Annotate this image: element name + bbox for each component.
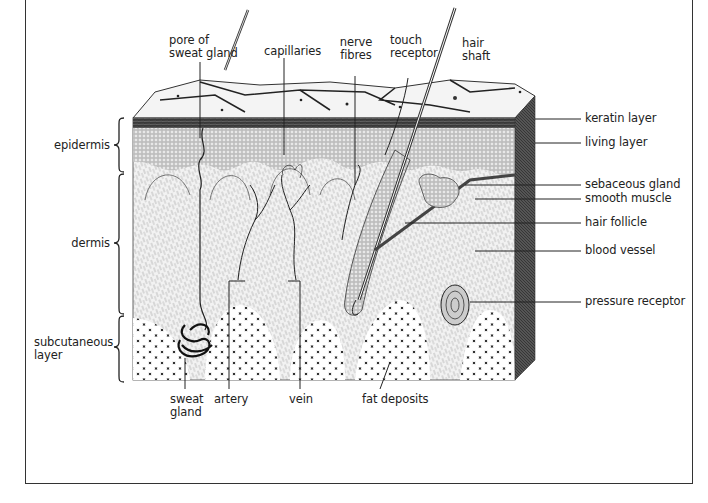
label-pore-line2: sweat gland — [169, 47, 238, 60]
label-hair-follicle: hair follicle — [585, 216, 647, 229]
side-face — [515, 96, 535, 380]
label-living-layer: living layer — [585, 136, 647, 149]
label-capillaries: capillaries — [264, 45, 321, 58]
label-subcutaneous-layer: subcutaneous layer — [34, 336, 113, 362]
label-fat-deposits: fat deposits — [362, 393, 428, 406]
label-epidermis: epidermis — [40, 139, 110, 152]
label-sweat-line2: gland — [170, 406, 204, 419]
layer-brackets — [114, 118, 124, 382]
label-hair-line2: shaft — [462, 50, 490, 63]
label-pressure-receptor: pressure receptor — [585, 295, 685, 308]
label-artery: artery — [214, 393, 248, 406]
label-subcutaneous-line2: layer — [34, 349, 113, 362]
label-dermis: dermis — [40, 237, 110, 250]
label-hair-shaft: hair shaft — [462, 37, 490, 63]
skin-surface — [133, 80, 535, 118]
label-vein: vein — [289, 393, 313, 406]
label-touch-receptor: touch receptor — [390, 34, 438, 60]
label-smooth-muscle: smooth muscle — [585, 192, 672, 205]
label-blood-vessel: blood vessel — [585, 244, 655, 257]
label-nerve-fibres: nerve fibres — [336, 36, 376, 62]
keratin-layer — [133, 118, 515, 128]
label-sebaceous-gland: sebaceous gland — [585, 178, 680, 191]
label-nerve-line2: fibres — [336, 49, 376, 62]
label-sweat-gland: sweat gland — [170, 393, 204, 419]
label-pore-of-sweat-gland: pore of sweat gland — [169, 34, 238, 60]
label-keratin-layer: keratin layer — [585, 112, 656, 125]
label-touch-line2: receptor — [390, 47, 438, 60]
